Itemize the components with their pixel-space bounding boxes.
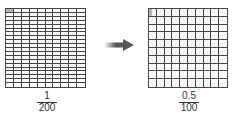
- grid-cell: [204, 64, 212, 72]
- grid-cell: [196, 71, 204, 79]
- grid-cell: [196, 17, 204, 25]
- grid-cell: [219, 48, 227, 56]
- grid-cell: [22, 83, 30, 87]
- grid-cell: [180, 56, 188, 64]
- grid-cell: [172, 48, 180, 56]
- grid-cell: [196, 56, 204, 64]
- grid-cell: [165, 17, 173, 25]
- grid-cell: [219, 32, 227, 40]
- grid-cell: [211, 48, 219, 56]
- grid-cell: [188, 9, 196, 17]
- right-arrow-icon: [104, 39, 134, 51]
- grid-cell: [204, 9, 212, 17]
- grid-cell: [219, 40, 227, 48]
- grid-cell: [204, 32, 212, 40]
- grid-cell: [165, 56, 173, 64]
- grid-cell: [188, 64, 196, 72]
- grid-cell: [149, 56, 157, 64]
- grid-cell: [196, 79, 204, 87]
- grid-cell: [149, 71, 157, 79]
- grid-cell: [196, 40, 204, 48]
- left-denominator: 200: [38, 103, 57, 113]
- grid-cell: [165, 79, 173, 87]
- grid-cell: [180, 25, 188, 33]
- grid-cell: [165, 40, 173, 48]
- grid-cell: [180, 71, 188, 79]
- grid-cell: [219, 79, 227, 87]
- grid-cell: [180, 17, 188, 25]
- grid-cell: [188, 79, 196, 87]
- grid-cell: [157, 17, 165, 25]
- grid-cell: [211, 32, 219, 40]
- grid-cell: [196, 64, 204, 72]
- grid-cell: [172, 64, 180, 72]
- grid-cell: [180, 48, 188, 56]
- left-grid-200-cells: [5, 8, 86, 88]
- grid-cell: [149, 17, 157, 25]
- grid-cell: [188, 71, 196, 79]
- grid-cell: [211, 40, 219, 48]
- grid-cell: [157, 71, 165, 79]
- grid-cell: [180, 32, 188, 40]
- grid-cell: [149, 40, 157, 48]
- grid-cell: [188, 40, 196, 48]
- grid-cell: [165, 64, 173, 72]
- grid-cell: [157, 48, 165, 56]
- grid-cell: [180, 9, 188, 17]
- grid-cell: [172, 32, 180, 40]
- grid-cell: [157, 64, 165, 72]
- grid-cell: [77, 83, 85, 87]
- grid-cell: [204, 17, 212, 25]
- grid-cell: [38, 83, 46, 87]
- grid-cell: [165, 71, 173, 79]
- grid-cell: [172, 56, 180, 64]
- grid-cell: [172, 9, 180, 17]
- grid-cell: [14, 83, 22, 87]
- grid-cell: [204, 71, 212, 79]
- right-denominator: 100: [180, 103, 199, 113]
- grid-cell: [149, 79, 157, 87]
- grid-cell: [188, 17, 196, 25]
- grid-cell: [188, 56, 196, 64]
- grid-cell: [157, 56, 165, 64]
- right-numerator: 0.5: [181, 91, 197, 101]
- grid-cell: [6, 83, 14, 87]
- grid-cell: [219, 9, 227, 17]
- grid-cell: [149, 64, 157, 72]
- grid-cell: [157, 9, 165, 17]
- grid-cell: [53, 83, 61, 87]
- grid-cell: [204, 48, 212, 56]
- grid-cell: [180, 40, 188, 48]
- grid-cell: [196, 9, 204, 17]
- grid-cell: [46, 83, 54, 87]
- shaded-half-cell: [149, 9, 152, 16]
- grid-cell: [157, 79, 165, 87]
- grid-cell: [219, 17, 227, 25]
- grid-cell: [188, 32, 196, 40]
- grid-cell: [219, 56, 227, 64]
- grid-cell: [69, 83, 77, 87]
- grid-cell: [157, 32, 165, 40]
- grid-cell: [204, 40, 212, 48]
- grid-cell: [61, 83, 69, 87]
- grid-cell: [204, 56, 212, 64]
- grid-cell: [211, 71, 219, 79]
- grid-cell: [196, 25, 204, 33]
- grid-cell: [196, 32, 204, 40]
- grid-cell: [30, 83, 38, 87]
- grid-cell: [211, 79, 219, 87]
- grid-cell: [165, 48, 173, 56]
- grid-cell: [204, 79, 212, 87]
- grid-cell: [165, 25, 173, 33]
- grid-cell: [219, 25, 227, 33]
- grid-cell: [172, 17, 180, 25]
- grid-cell: [149, 32, 157, 40]
- grid-cell: [165, 32, 173, 40]
- left-numerator: 1: [43, 91, 51, 101]
- grid-cell: [211, 17, 219, 25]
- grid-cell: [149, 25, 157, 33]
- grid-cell: [219, 64, 227, 72]
- right-fraction-label: 0.5 100: [179, 91, 199, 113]
- grid-cell: [188, 25, 196, 33]
- grid-cell: [157, 40, 165, 48]
